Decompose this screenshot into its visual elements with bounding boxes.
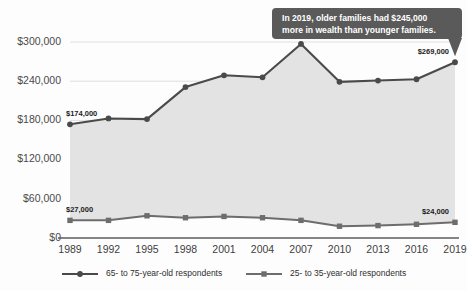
x-tick-label-1998: 1998: [174, 243, 198, 255]
data-point-younger-2001: [221, 214, 226, 219]
point-label-27000: $27,000: [66, 205, 93, 214]
y-tick-label: $120,000: [17, 152, 61, 164]
legend-label-1[interactable]: 25- to 35-year-old respondents: [290, 268, 406, 278]
point-label-174000: $174,000: [66, 109, 97, 118]
y-tick-label: $300,000: [17, 35, 61, 47]
y-axis-tick-labels: $0$60,000$120,000$180,000$240,000$300,00…: [17, 35, 61, 243]
callout-line-2: more in wealth than younger families.: [282, 25, 436, 35]
data-point-older-1989: [67, 121, 73, 127]
data-point-younger-2019: [452, 220, 457, 225]
series-band: [70, 44, 455, 226]
point-label-24000: $24,000: [422, 207, 449, 216]
y-tick-label: $180,000: [17, 113, 61, 125]
data-point-older-2016: [414, 76, 420, 82]
data-point-older-2013: [375, 78, 381, 84]
data-point-older-1998: [183, 84, 189, 90]
wealth-gap-band: [70, 44, 455, 226]
data-point-older-2007: [298, 41, 304, 47]
x-tick-label-2019: 2019: [443, 243, 467, 255]
x-axis-tick-labels: 1989199219951998200120042007201020132016…: [58, 243, 467, 255]
x-tick-label-1992: 1992: [97, 243, 121, 255]
data-point-younger-2016: [414, 222, 419, 227]
legend-marker-circle: [77, 271, 83, 277]
data-point-older-1995: [144, 116, 150, 122]
data-point-older-2004: [260, 74, 266, 80]
point-label-269000: $269,000: [418, 47, 449, 56]
data-point-younger-2004: [260, 215, 265, 220]
callout-pointer: [448, 38, 462, 56]
data-point-younger-2007: [298, 218, 303, 223]
y-tick-label: $0: [49, 231, 61, 243]
legend-marker-square: [261, 271, 266, 276]
data-point-younger-2010: [337, 224, 342, 229]
data-point-older-1992: [106, 116, 112, 122]
y-tick-label: $240,000: [17, 74, 61, 86]
chart-canvas: $0$60,000$120,000$180,000$240,000$300,00…: [0, 0, 467, 291]
data-point-older-2010: [337, 79, 343, 85]
data-point-younger-2013: [375, 223, 380, 228]
wealth-by-age-line-chart: $0$60,000$120,000$180,000$240,000$300,00…: [0, 0, 467, 291]
x-tick-label-2010: 2010: [328, 243, 352, 255]
x-tick-label-2004: 2004: [251, 243, 275, 255]
x-tick-label-2016: 2016: [405, 243, 429, 255]
legend-label-0[interactable]: 65- to 75-year-old respondents: [106, 268, 222, 278]
data-point-older-2001: [221, 72, 227, 78]
chart-legend: 65- to 75-year-old respondents25- to 35-…: [62, 268, 406, 278]
x-tick-label-2013: 2013: [366, 243, 390, 255]
y-tick-label: $60,000: [23, 192, 61, 204]
data-point-younger-1998: [183, 215, 188, 220]
x-tick-label-1989: 1989: [58, 243, 82, 255]
callout-line-1: In 2019, older families had $245,000: [282, 13, 427, 23]
data-point-younger-1995: [144, 213, 149, 218]
x-tick-label-1995: 1995: [135, 243, 159, 255]
data-point-younger-1992: [106, 218, 111, 223]
x-tick-label-2001: 2001: [212, 243, 236, 255]
data-point-older-2019: [452, 59, 458, 65]
data-point-younger-1989: [67, 218, 72, 223]
x-tick-label-2007: 2007: [289, 243, 313, 255]
